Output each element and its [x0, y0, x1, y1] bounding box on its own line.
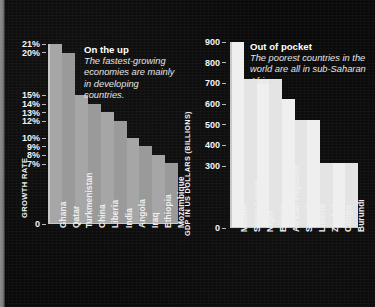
- page-edge-strip: [0, 0, 5, 307]
- category-label-india: India: [124, 208, 134, 228]
- gdp-category-labels: MalawiSierra LeoneNigerEritreaAfrican Re…: [230, 230, 360, 307]
- category-label-african-republic: African Republic: [291, 164, 301, 232]
- bar-ghana: [50, 44, 63, 223]
- growth-tick-mark: [42, 224, 46, 225]
- chart-page: GROWTH RATE 21%20%15%14%13%12%10%9%8%7%0…: [0, 0, 375, 307]
- gdp-annotation: Out of pocket The poorest countries in t…: [250, 41, 374, 87]
- gdp-tick-label: 500: [205, 120, 226, 130]
- gdp-tick-label: 600: [205, 99, 226, 109]
- growth-tick-mark: [42, 104, 46, 105]
- gdp-tick-mark: [222, 166, 226, 167]
- category-label-ghana: Ghana: [58, 201, 68, 228]
- growth-tick-mark: [42, 155, 46, 156]
- gdp-annotation-body: The poorest countries in the world are a…: [250, 53, 374, 87]
- gdp-tick-label: 700: [205, 78, 226, 88]
- category-label-zimbabwe: Zimbabwe: [330, 190, 340, 232]
- category-label-niger: Niger: [265, 210, 275, 232]
- gdp-tick-mark: [222, 42, 226, 43]
- growth-tick-mark: [42, 95, 46, 96]
- growth-tick-mark: [42, 52, 46, 53]
- category-label-somalia: Somalia: [304, 199, 314, 232]
- category-label-burundi: Burundi: [356, 199, 366, 232]
- growth-tick-label: 20%: [22, 48, 46, 58]
- category-label-ethiopia: Ethiopia: [163, 194, 173, 228]
- category-label-liberia: Liberia: [317, 204, 327, 232]
- gdp-tick-label: 800: [205, 58, 226, 68]
- growth-tick-mark: [42, 146, 46, 147]
- growth-tick-mark: [42, 112, 46, 113]
- growth-tick-label: 0: [35, 219, 46, 229]
- gdp-tick-mark: [222, 124, 226, 125]
- growth-annotation: On the up The fastest-growing economies …: [84, 44, 180, 101]
- gdp-tick-label: 0: [215, 223, 226, 233]
- gdp-tick-mark: [222, 145, 226, 146]
- category-label-sierra-leone: Sierra Leone: [252, 180, 262, 232]
- bar-malawi: [232, 42, 245, 227]
- gdp-tick-mark: [222, 228, 226, 229]
- growth-rate-chart-panel: GROWTH RATE 21%20%15%14%13%12%10%9%8%7%0…: [6, 0, 182, 307]
- growth-tick-label: 12%: [22, 116, 46, 126]
- gdp-y-axis-ticks: 9008007006005004003000: [184, 0, 226, 307]
- gdp-tick-label: 400: [205, 140, 226, 150]
- category-label-liberia: Liberia: [110, 200, 120, 228]
- growth-tick-mark: [42, 44, 46, 45]
- growth-annotation-title: On the up: [84, 44, 180, 55]
- gdp-tick-mark: [222, 62, 226, 63]
- category-label-china: China: [97, 204, 107, 228]
- growth-tick-label: 7%: [27, 159, 46, 169]
- category-label-qatar: Qatar: [71, 206, 81, 228]
- bar-qatar: [62, 53, 75, 223]
- category-label-turkmenistan: Turkmenistan: [84, 173, 94, 229]
- category-label-eritrea: Eritrea: [278, 205, 288, 232]
- growth-tick-mark: [42, 121, 46, 122]
- category-label-malawi: Malawi: [239, 204, 249, 232]
- growth-tick-mark: [42, 164, 46, 165]
- gdp-tick-mark: [222, 104, 226, 105]
- gdp-tick-mark: [222, 83, 226, 84]
- growth-tick-mark: [42, 138, 46, 139]
- category-label-iraq: Iraq: [150, 212, 160, 228]
- growth-y-axis-ticks: 21%20%15%14%13%12%10%9%8%7%0: [6, 0, 46, 307]
- growth-category-labels: GhanaQatarTurkmenistanChinaLiberiaIndiaA…: [48, 226, 180, 307]
- category-label-angola: Angola: [137, 199, 147, 228]
- category-label-congo: Congo: [343, 205, 353, 232]
- gdp-tick-label: 300: [205, 161, 226, 171]
- gdp-annotation-title: Out of pocket: [250, 41, 374, 52]
- growth-annotation-body: The fastest-growing economies are mainly…: [84, 56, 180, 101]
- gdp-tick-label: 900: [205, 37, 226, 47]
